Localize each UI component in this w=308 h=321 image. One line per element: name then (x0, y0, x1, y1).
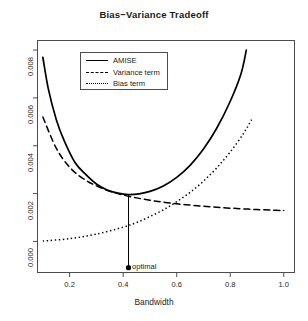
x-axis-ticks (70, 273, 284, 278)
legend-entry-bias-term: Bias term (85, 78, 145, 89)
legend-entry-variance-term: Variance term (85, 67, 160, 78)
legend-label: AMISE (109, 56, 137, 65)
y-tick-label: 0.006 (26, 97, 35, 131)
dashed-line-key (85, 67, 109, 77)
solid-line-key (85, 56, 109, 66)
series-line-variance-term (43, 117, 284, 211)
optimal-annotation-label: optimal (132, 262, 156, 271)
x-tick-label: 0.8 (215, 280, 245, 289)
y-tick-label: 0.002 (26, 193, 35, 227)
x-tick-label: 0.2 (55, 280, 85, 289)
y-tick-label: 0.008 (26, 50, 35, 84)
annotation-layer (126, 195, 131, 271)
legend-label: Variance term (109, 68, 160, 77)
optimal-point-marker (126, 265, 131, 270)
chart-figure: Bias−Variance Tradeoff 0.0000.0020.0040.… (0, 0, 308, 321)
legend-entry-amise: AMISE (85, 55, 137, 66)
y-tick-label: 0.000 (26, 241, 35, 275)
x-tick-label: 0.4 (108, 280, 138, 289)
x-axis-title: Bandwidth (0, 297, 308, 307)
dotted-line-key (85, 79, 109, 89)
x-tick-label: 0.6 (162, 280, 192, 289)
legend: AMISE Variance term Bias term (80, 52, 168, 90)
plot-area (0, 0, 308, 321)
y-tick-label: 0.004 (26, 145, 35, 179)
x-tick-label: 1.0 (269, 280, 299, 289)
legend-label: Bias term (109, 79, 145, 88)
series-line-bias-term (43, 119, 252, 241)
